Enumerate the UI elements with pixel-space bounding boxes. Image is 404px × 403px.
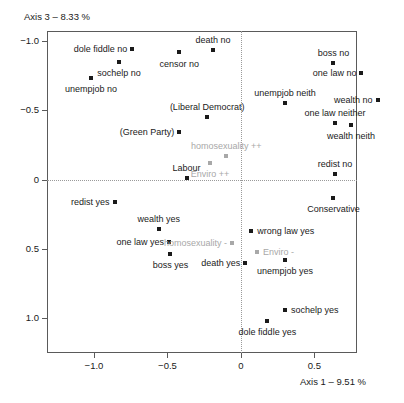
data-point-marker: [208, 161, 212, 165]
data-point-label: Conservative: [307, 204, 360, 214]
data-point-marker: [211, 48, 215, 52]
x-tick-label: −0.5: [158, 360, 177, 371]
data-point-label: homosexuality ++: [191, 141, 262, 151]
data-point-label: wealth neith: [327, 131, 375, 141]
data-point-marker: [157, 227, 161, 231]
x-tick-label: 0.5: [308, 360, 321, 371]
data-point-label: boss no: [318, 48, 350, 58]
data-point-marker: [177, 50, 181, 54]
data-point-marker: [283, 101, 287, 105]
data-point-marker: [205, 115, 209, 119]
y-tick-mark: [42, 249, 47, 250]
data-point-marker: [283, 258, 287, 262]
y-axis-title: Axis 3 – 8.33 %: [24, 11, 90, 22]
data-point-label: sochelp no: [97, 68, 141, 78]
data-point-marker: [331, 61, 335, 65]
horizontal-zero-line: [47, 180, 357, 181]
data-point-label: dole fiddle yes: [239, 327, 297, 337]
y-tick-label: −0.5: [0, 104, 39, 115]
data-point-label: Enviro -: [263, 247, 294, 257]
data-point-label: wealth yes: [137, 214, 180, 224]
data-point-marker: [243, 261, 247, 265]
data-point-marker: [117, 60, 121, 64]
data-point-label: redist no: [318, 159, 353, 169]
data-point-marker: [185, 176, 189, 180]
data-point-marker: [359, 71, 363, 75]
data-point-marker: [349, 123, 353, 127]
data-point-marker: [130, 47, 134, 51]
data-point-label: unempjob neith: [254, 88, 316, 98]
data-point-marker: [230, 241, 234, 245]
data-point-label: unempjob no: [65, 84, 117, 94]
x-tick-label: 0: [238, 360, 243, 371]
data-point-label: dole fiddle no: [74, 44, 128, 54]
data-point-marker: [333, 121, 337, 125]
data-point-label: unempjob yes: [257, 266, 313, 276]
data-point-label: one law neither: [304, 108, 365, 118]
data-point-marker: [333, 172, 337, 176]
y-tick-label: −1.0: [0, 35, 39, 46]
x-axis-title: Axis 1 – 9.51 %: [300, 376, 366, 387]
data-point-label: one law no: [313, 68, 357, 78]
data-point-marker: [255, 250, 259, 254]
x-tick-mark: [167, 353, 168, 358]
data-point-marker: [249, 229, 253, 233]
scatter-plot-figure: Axis 3 – 8.33 % Axis 1 – 9.51 % −1.0−0.5…: [0, 0, 404, 403]
data-point-label: sochelp yes: [291, 305, 339, 315]
vertical-zero-line: [241, 31, 242, 353]
y-tick-mark: [42, 41, 47, 42]
x-tick-mark: [314, 353, 315, 358]
data-point-marker: [224, 154, 228, 158]
data-point-label: censor no: [159, 59, 199, 69]
data-point-label: one law yes: [116, 237, 164, 247]
data-point-label: (Liberal Democrat): [170, 102, 245, 112]
data-point-label: wrong law yes: [257, 226, 314, 236]
data-point-label: redist yes: [71, 197, 110, 207]
y-tick-mark: [42, 180, 47, 181]
data-point-marker: [283, 308, 287, 312]
y-tick-label: 0: [0, 174, 39, 185]
data-point-marker: [265, 319, 269, 323]
data-point-label: death no: [195, 35, 230, 45]
data-point-label: boss yes: [153, 260, 189, 270]
data-point-marker: [168, 252, 172, 256]
y-tick-label: 0.5: [0, 243, 39, 254]
y-tick-label: 1.0: [0, 312, 39, 323]
data-point-marker: [113, 200, 117, 204]
data-point-marker: [331, 196, 335, 200]
data-point-marker: [376, 98, 380, 102]
x-tick-mark: [94, 353, 95, 358]
data-point-label: death yes: [201, 258, 240, 268]
data-point-marker: [177, 130, 181, 134]
data-point-label: homosexuality -: [164, 238, 227, 248]
x-tick-label: −1.0: [85, 360, 104, 371]
data-point-marker: [89, 76, 93, 80]
y-tick-mark: [42, 110, 47, 111]
data-point-label: Labour: [173, 163, 201, 173]
y-tick-mark: [42, 318, 47, 319]
data-point-label: wealth no: [334, 95, 373, 105]
x-tick-mark: [241, 353, 242, 358]
data-point-label: (Green Party): [120, 127, 175, 137]
